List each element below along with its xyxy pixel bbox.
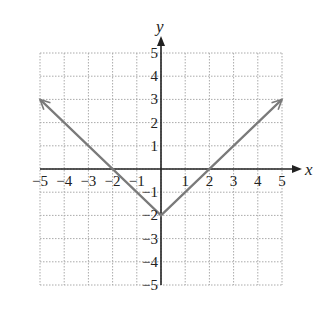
y-tick-label: 2 xyxy=(151,115,159,131)
y-tick-label: 3 xyxy=(151,91,159,107)
y-tick-label: −1 xyxy=(142,184,158,200)
y-tick-label: −4 xyxy=(142,254,158,270)
x-tick-label: −3 xyxy=(80,173,96,189)
x-tick-label: −2 xyxy=(105,173,121,189)
x-tick-label: 5 xyxy=(278,173,286,189)
y-tick-label: −3 xyxy=(142,231,158,247)
x-tick-label: 4 xyxy=(254,173,262,189)
x-axis-label: x xyxy=(304,160,313,179)
x-tick-label: −4 xyxy=(56,173,72,189)
y-axis-arrow-icon xyxy=(157,36,165,46)
y-tick-label: 5 xyxy=(151,45,159,61)
y-tick-label: −5 xyxy=(142,277,158,293)
x-tick-label: −5 xyxy=(32,173,48,189)
x-axis-arrow-icon xyxy=(292,165,302,173)
graph: xy −5−4−3−2−11234554321−1−2−3−4−5 xyxy=(0,0,329,315)
x-tick-label: 1 xyxy=(181,173,189,189)
x-tick-label: 3 xyxy=(230,173,238,189)
y-axis-label: y xyxy=(154,17,164,36)
axes: xy xyxy=(40,17,313,285)
y-tick-label: −2 xyxy=(142,207,158,223)
x-tick-label: 2 xyxy=(206,173,214,189)
y-tick-label: 4 xyxy=(151,68,159,84)
y-tick-label: 1 xyxy=(151,138,159,154)
